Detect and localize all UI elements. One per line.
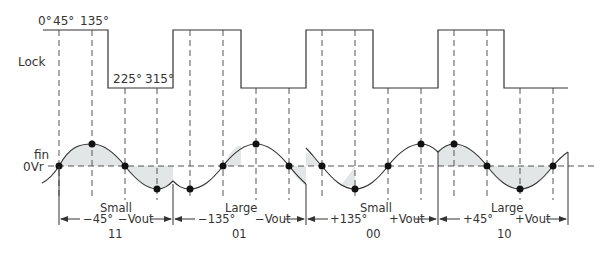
segment-2-output: −Vout xyxy=(255,212,291,226)
lock-label: Lock xyxy=(18,55,45,69)
segment-4-phase: +45° xyxy=(463,212,493,226)
segment-1-code: 11 xyxy=(108,227,123,241)
zero-volt-label: 0Vr xyxy=(23,160,44,174)
angle-135-label: 135° xyxy=(80,14,109,28)
angle-45-label: 45° xyxy=(53,14,74,28)
angle-315-label: 315° xyxy=(145,72,174,86)
segment-1-output: −Vout xyxy=(118,212,154,226)
segment-2-code: 01 xyxy=(232,227,247,241)
segment-3-output: +Vout xyxy=(389,212,425,226)
timing-diagram: 0° 45° 135° 225° 315° Lock fin 0Vr Small… xyxy=(0,0,596,253)
segment-3-phase: +135° xyxy=(330,212,367,226)
segment-1-phase: −45° xyxy=(83,212,113,226)
segment-3-code: 00 xyxy=(366,227,381,241)
segment-4-code: 10 xyxy=(497,227,512,241)
segment-4-output: +Vout xyxy=(515,212,551,226)
segment-2-phase: −135° xyxy=(198,212,235,226)
angle-0-label: 0° xyxy=(38,14,52,28)
angle-225-label: 225° xyxy=(113,72,142,86)
